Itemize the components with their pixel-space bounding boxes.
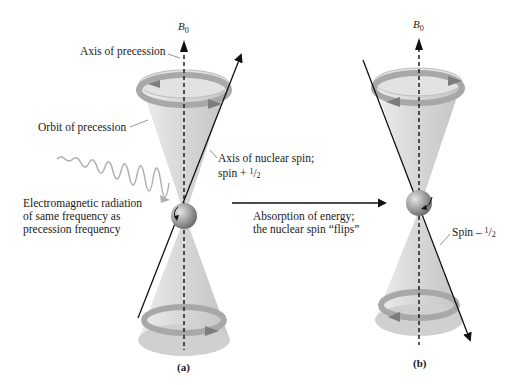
leader-axis-nuclear-spin xyxy=(210,150,217,158)
b0-label-a: B0 xyxy=(178,20,189,35)
em-wave-arrowhead-icon xyxy=(160,195,170,203)
b0-label-b: B0 xyxy=(413,18,424,33)
em-radiation-wave xyxy=(57,157,169,197)
b0-arrow-icon-a xyxy=(180,40,188,52)
label-spin-minus-half: Spin – 1/2 xyxy=(452,224,496,241)
nmr-precession-diagram xyxy=(0,0,519,385)
label-axis-of-nuclear-spin: Axis of nuclear spin; spin + 1/2 xyxy=(218,152,314,182)
label-orbit-of-precession: Orbit of precession xyxy=(38,121,126,134)
panel-b-group xyxy=(363,38,470,345)
panel-label-a: (a) xyxy=(177,361,190,373)
label-absorption-of-energy: Absorption of energy; the nuclear spin “… xyxy=(253,210,359,236)
label-em-radiation: Electromagnetic radiation of same freque… xyxy=(23,197,142,236)
leader-axis-of-precession xyxy=(168,54,180,58)
label-axis-of-precession: Axis of precession xyxy=(80,45,166,58)
leader-orbit-of-precession xyxy=(130,120,148,127)
leader-spin-minus xyxy=(440,234,450,245)
nucleus-sphere-b xyxy=(406,190,432,216)
b0-arrow-icon-b xyxy=(415,38,423,50)
panel-label-b: (b) xyxy=(413,357,426,369)
